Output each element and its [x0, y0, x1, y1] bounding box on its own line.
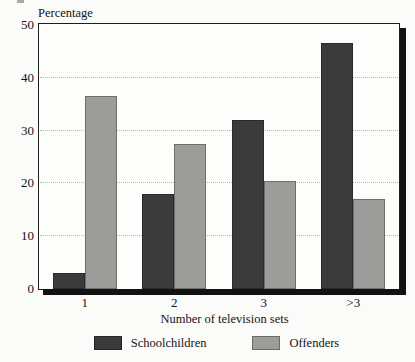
bar-offenders-2[interactable]: [174, 144, 206, 289]
bar-group-3: [232, 25, 296, 289]
bar-group-1: [53, 25, 117, 289]
y-tick-label: 20: [4, 176, 34, 189]
bar-offenders-gt3[interactable]: [353, 199, 385, 289]
bar-offenders-1[interactable]: [85, 96, 117, 289]
legend-swatch-schoolchildren: [94, 336, 122, 350]
bar-chart-figure: Percentage 01020304050 123>3 Number of t…: [0, 0, 415, 362]
x-tick-label: >3: [346, 296, 360, 310]
y-tick-label: 50: [4, 18, 34, 31]
legend-swatch-offenders: [252, 336, 280, 350]
y-tick-label: 30: [4, 124, 34, 137]
y-tick-label: 40: [4, 71, 34, 84]
y-axis-tick-labels: 01020304050: [0, 25, 34, 289]
x-axis-title-text: Number of television sets: [126, 312, 288, 326]
bar-schoolchildren-2[interactable]: [142, 194, 174, 289]
bar-schoolchildren-1[interactable]: [53, 273, 85, 289]
legend-item-offenders[interactable]: Offenders: [252, 336, 339, 350]
bar-series-layer: [40, 25, 398, 289]
bar-schoolchildren-gt3[interactable]: [321, 43, 353, 289]
y-tick-label: 10: [4, 229, 34, 242]
bar-group-2: [142, 25, 206, 289]
bar-schoolchildren-3[interactable]: [232, 120, 264, 289]
chart-legend: SchoolchildrenOffenders: [0, 332, 415, 354]
plot-frame-shadow-right: [400, 28, 406, 295]
legend-label: Offenders: [289, 336, 339, 350]
x-axis-title: Number of television sets: [0, 312, 415, 326]
x-tick-label: 2: [171, 296, 178, 310]
bar-group-gt3: [321, 25, 385, 289]
y-axis-title: Percentage: [38, 7, 93, 20]
legend-item-schoolchildren[interactable]: Schoolchildren: [94, 336, 207, 350]
x-tick-label: 3: [261, 296, 268, 310]
bar-offenders-3[interactable]: [264, 181, 296, 289]
y-tick-label: 0: [4, 282, 34, 295]
x-tick-label: 1: [82, 296, 89, 310]
scan-artifact: [17, 0, 24, 3]
legend-label: Schoolchildren: [131, 336, 207, 350]
